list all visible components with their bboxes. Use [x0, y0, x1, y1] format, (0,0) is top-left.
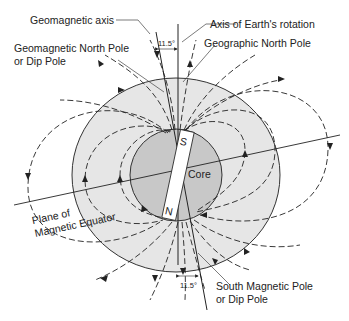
- geomagnetic-north-pole-label-2: or Dip Pole: [14, 55, 66, 67]
- geographic-north-pole-label: Geographic North Pole: [204, 37, 311, 49]
- tilt-angle-bottom: 11.5°: [180, 281, 197, 290]
- geomagnetic-north-pole-label-1: Geomagnetic North Pole: [14, 42, 129, 54]
- tilt-angle-top: 11.5°: [158, 39, 175, 48]
- south-magnetic-pole-label-2: or Dip Pole: [216, 293, 268, 305]
- core-label: Core: [188, 168, 211, 180]
- rotation-axis-label: Axis of Earth's rotation: [210, 18, 315, 30]
- geomagnetic-field-diagram: S N Core 11.5° 11.5° Geomagnetic axis Ax…: [0, 0, 349, 321]
- geomagnetic-axis-label: Geomagnetic axis: [30, 14, 114, 26]
- south-magnetic-pole-label-1: South Magnetic Pole: [216, 280, 313, 292]
